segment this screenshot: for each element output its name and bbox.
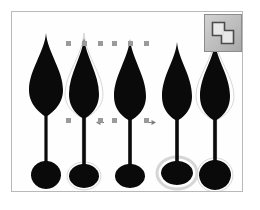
handle-middle-right[interactable] bbox=[144, 118, 149, 123]
handle-middle-left[interactable] bbox=[112, 118, 117, 123]
pin-shape-5[interactable] bbox=[196, 37, 234, 192]
accessible-labels: Shape editing canvas Selection handles U… bbox=[0, 0, 1, 1]
app-root: Shape editing canvas Selection handles U… bbox=[0, 0, 260, 210]
handle-top-left[interactable] bbox=[66, 41, 71, 46]
pin-shape-4[interactable] bbox=[157, 42, 197, 189]
handle-middle-left[interactable] bbox=[66, 118, 71, 123]
unite-shapes-button[interactable] bbox=[204, 14, 242, 52]
pin-shape-2[interactable] bbox=[65, 33, 103, 190]
pin-shape-4-body[interactable] bbox=[161, 42, 193, 185]
pin-shape-3-body[interactable] bbox=[114, 39, 146, 188]
handle-top-right[interactable] bbox=[98, 41, 103, 46]
pin-shape-1-body[interactable] bbox=[29, 33, 63, 189]
pin-shape-5-body[interactable] bbox=[199, 42, 231, 190]
handle-top-left[interactable] bbox=[112, 41, 117, 46]
handle-top-center[interactable] bbox=[82, 41, 87, 46]
unite-shapes-icon bbox=[209, 19, 237, 47]
handle-top-center[interactable] bbox=[128, 41, 133, 46]
handle-top-right[interactable] bbox=[144, 41, 149, 46]
handle-middle-right[interactable] bbox=[98, 118, 103, 123]
pin-shape-1[interactable] bbox=[29, 33, 63, 189]
canvas-label: Shape editing canvas bbox=[0, 0, 1, 1]
pin-shape-3[interactable] bbox=[114, 39, 146, 188]
pin-shape-2-body[interactable] bbox=[69, 38, 99, 188]
